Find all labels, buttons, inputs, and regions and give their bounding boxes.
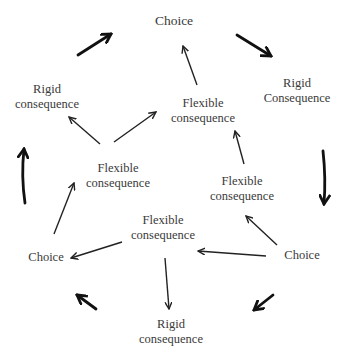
arrow-flexible-left-to-flexible-top [114, 112, 156, 142]
node-choice-right: Choice [284, 248, 319, 263]
thick-arrow-bottom-right [254, 295, 273, 310]
arrow-flexible-left-to-rigid-top-left [69, 117, 100, 144]
arrow-flexible-right-to-flexible-top [235, 131, 244, 164]
arrow-choice-right-to-flexible-right [246, 216, 277, 245]
node-label-line1: Rigid [15, 82, 79, 97]
node-label-line1: Rigid [139, 317, 203, 332]
node-choice-left: Choice [28, 250, 63, 265]
node-rigid-consequence-top-left: Rigid consequence [15, 82, 79, 112]
node-label: Choice [155, 13, 193, 28]
node-label-line2: consequence [86, 176, 150, 191]
node-label-line1: Rigid [264, 76, 331, 91]
node-label-line1: Flexible [86, 161, 150, 176]
thick-arrow-top-left [78, 34, 111, 55]
node-label-line1: Flexible [210, 174, 274, 189]
node-label-line2: consequence [131, 228, 195, 243]
node-label-line2: consequence [171, 111, 235, 126]
node-rigid-consequence-bottom: Rigid consequence [139, 317, 203, 347]
node-flexible-consequence-middle-right: Flexible consequence [210, 174, 274, 204]
node-label-line2: Consequence [264, 91, 331, 106]
arrow-choice-left-to-flexible-left [54, 183, 74, 234]
arrow-flexible-bottom-to-choice-left [71, 242, 122, 258]
thick-arrow-left [23, 149, 25, 203]
arrow-flexible-top-to-choice-top [183, 46, 197, 85]
thick-arrow-top-right [237, 35, 271, 56]
node-label-line2: consequence [15, 97, 79, 112]
node-label-line2: consequence [210, 189, 274, 204]
node-label: Choice [28, 250, 63, 265]
node-rigid-consequence-top-right: Rigid Consequence [264, 76, 331, 106]
node-flexible-consequence-bottom-center: Flexible consequence [131, 213, 195, 243]
node-label: Choice [284, 248, 319, 263]
choice-consequence-cycle-diagram: Choice Rigid consequence Rigid Consequen… [0, 0, 354, 359]
node-label-line1: Flexible [171, 96, 235, 111]
arrows-layer [0, 0, 354, 359]
arrow-flexible-bottom-to-rigid-bottom [165, 258, 169, 309]
node-flexible-consequence-top-center: Flexible consequence [171, 96, 235, 126]
node-flexible-consequence-middle-left: Flexible consequence [86, 161, 150, 191]
thick-arrow-right [323, 151, 325, 204]
node-label-line1: Flexible [131, 213, 195, 228]
thick-arrow-bottom-left [77, 295, 96, 309]
arrow-choice-right-to-flexible-bottom [198, 251, 266, 256]
node-label-line2: consequence [139, 332, 203, 347]
node-choice-top: Choice [155, 13, 193, 28]
